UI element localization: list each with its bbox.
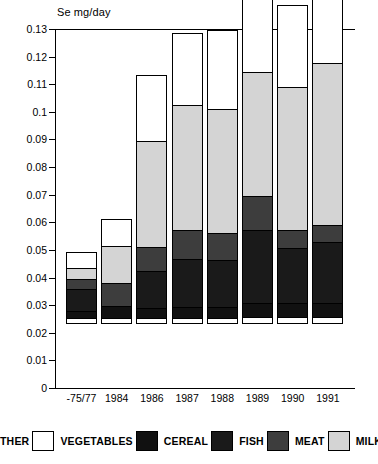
legend-label-milk: MILK bbox=[356, 435, 378, 447]
bar-segment-cereal bbox=[243, 231, 272, 304]
bar-segment-milk bbox=[243, 0, 272, 73]
legend-label-other: THER bbox=[0, 435, 32, 447]
legend-swatch-meat bbox=[328, 431, 350, 451]
bar-1991 bbox=[312, 0, 343, 324]
bar-1990 bbox=[277, 5, 308, 324]
bar-segment-vegetables bbox=[173, 308, 202, 319]
legend-swatch-fish bbox=[267, 431, 289, 451]
bar-segment-fish bbox=[137, 248, 166, 273]
bar-segment-fish bbox=[313, 226, 342, 244]
bar-segment-vegetables bbox=[313, 304, 342, 318]
bar-segment-fish bbox=[278, 231, 307, 249]
bar-segment-vegetables bbox=[67, 312, 96, 319]
legend-item-vegetables: VEGETABLES bbox=[60, 428, 163, 454]
bar-1987 bbox=[172, 33, 203, 324]
bar-segment-fish bbox=[67, 280, 96, 291]
stacked-bar-chart: Se mg/day 00.010.020.030.040.050.060.070… bbox=[0, 0, 378, 464]
x-axis-label-1991: 1991 bbox=[302, 392, 354, 404]
bar-segment-other bbox=[173, 319, 202, 323]
legend-item-meat: MEAT bbox=[295, 428, 356, 454]
bar-segment-fish bbox=[208, 234, 237, 261]
bar-segment-cereal bbox=[67, 290, 96, 312]
bar-segment-milk bbox=[173, 34, 202, 107]
bar-segment-fish bbox=[173, 231, 202, 260]
bar-segment-other bbox=[102, 319, 131, 323]
bar-segment-meat bbox=[313, 64, 342, 226]
legend-item-milk: MILK bbox=[356, 428, 378, 454]
legend-label-vegetables: VEGETABLES bbox=[60, 435, 135, 447]
bar-1986 bbox=[136, 75, 167, 324]
bar-segment-cereal bbox=[173, 260, 202, 308]
bar-1989 bbox=[242, 0, 273, 324]
bar-segment-other bbox=[243, 318, 272, 323]
bar-segment-milk bbox=[278, 6, 307, 88]
bar-segment-other bbox=[208, 319, 237, 323]
bar--75-77 bbox=[66, 252, 97, 324]
legend-label-meat: MEAT bbox=[295, 435, 328, 447]
legend-label-cereal: CEREAL bbox=[164, 435, 211, 447]
legend-swatch-other bbox=[32, 431, 54, 451]
bar-segment-meat bbox=[67, 269, 96, 280]
bar-segment-meat bbox=[102, 247, 131, 284]
bar-segment-meat bbox=[278, 88, 307, 231]
bar-segment-vegetables bbox=[208, 308, 237, 319]
bar-segment-milk bbox=[208, 31, 237, 111]
legend-label-fish: FISH bbox=[239, 435, 267, 447]
bar-segment-vegetables bbox=[137, 309, 166, 319]
bar-segment-vegetables bbox=[278, 304, 307, 318]
bar-segment-cereal bbox=[208, 261, 237, 308]
bar-segment-meat bbox=[137, 142, 166, 247]
bar-group bbox=[0, 0, 378, 400]
bar-segment-vegetables bbox=[243, 304, 272, 318]
bar-1984 bbox=[101, 219, 132, 324]
bar-1988 bbox=[207, 30, 238, 324]
bar-segment-milk bbox=[67, 253, 96, 269]
legend-item-fish: FISH bbox=[239, 428, 295, 454]
bar-segment-meat bbox=[243, 73, 272, 197]
bar-segment-fish bbox=[102, 284, 131, 307]
bar-segment-cereal bbox=[137, 272, 166, 309]
bar-segment-other bbox=[67, 319, 96, 323]
bar-segment-other bbox=[278, 318, 307, 323]
bar-segment-cereal bbox=[313, 243, 342, 303]
bar-segment-meat bbox=[208, 110, 237, 233]
bar-segment-other bbox=[137, 319, 166, 323]
bar-segment-milk bbox=[313, 0, 342, 64]
legend-item-other: THER bbox=[0, 428, 60, 454]
bar-segment-milk bbox=[102, 220, 131, 247]
legend-swatch-cereal bbox=[211, 431, 233, 451]
legend-item-cereal: CEREAL bbox=[164, 428, 239, 454]
bar-segment-meat bbox=[173, 106, 202, 231]
bar-segment-other bbox=[313, 318, 342, 323]
bar-segment-cereal bbox=[278, 249, 307, 304]
bar-segment-milk bbox=[137, 76, 166, 142]
bar-segment-vegetables bbox=[102, 307, 131, 319]
chart-legend: THERVEGETABLESCEREALFISHMEATMILK bbox=[0, 428, 378, 454]
legend-swatch-vegetables bbox=[136, 431, 158, 451]
bar-segment-fish bbox=[243, 197, 272, 231]
